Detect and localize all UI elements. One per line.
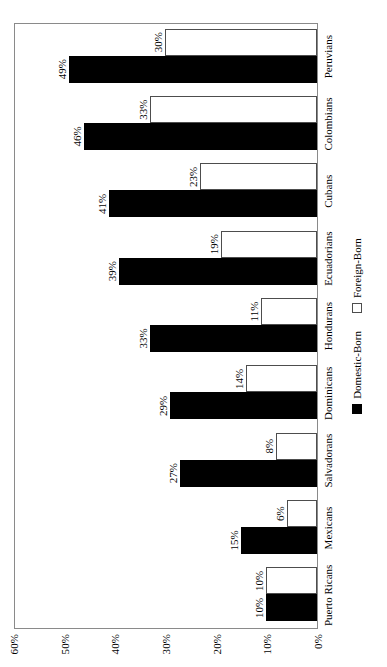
category-tick-label: Mexicans [322,507,334,550]
value-tick-label: 30% [160,634,172,654]
bar-value-label: 39% [106,261,118,281]
bar-value-label: 23% [187,167,199,187]
value-tick-label: 40% [109,634,121,654]
value-tick-label: 60% [8,634,20,654]
bar-value-label: 11% [248,302,260,322]
category-tick-label: Salvadorans [322,434,334,488]
category-tick-label: Hondurans [322,302,334,350]
value-tick-label: 50% [59,634,71,654]
bar-domestic-born[interactable]: 33% [150,325,317,352]
chart-page: 0%10%20%30%40%50%60% 10%10%15%6%27%8%29%… [0,0,387,667]
value-tick-label: 20% [211,634,223,654]
value-tick-label: 0% [312,634,324,649]
bar-foreign-born[interactable]: 14% [246,365,317,392]
legend-swatch-foreign-born-icon [352,303,362,313]
bar-domestic-born[interactable]: 41% [109,190,317,217]
bar-foreign-born[interactable]: 23% [200,163,317,190]
bar-value-label: 14% [233,369,245,389]
bar-value-label: 10% [253,598,265,618]
bar-group: 10%10% [15,561,317,628]
bar-group: 33%11% [15,291,317,358]
legend-label: Domestic-Born [351,331,363,399]
bar-domestic-born[interactable]: 15% [241,527,317,554]
bar-group: 39%19% [15,224,317,291]
legend-label: Foreign-Born [351,238,363,298]
bar-value-label: 46% [71,126,83,146]
legend-item[interactable]: Domestic-Born [351,331,363,414]
bar-value-label: 8% [263,439,275,454]
category-tick-label: Dominicans [322,367,334,420]
value-tick-label: 10% [261,634,273,654]
legend-item[interactable]: Foreign-Born [351,238,363,313]
plot-area: 10%10%15%6%27%8%29%14%33%11%39%19%41%23%… [14,23,318,629]
bar-domestic-born[interactable]: 10% [266,594,317,621]
legend-swatch-domestic-born-icon [352,404,362,414]
bar-chart-figure: 0%10%20%30%40%50%60% 10%10%15%6%27%8%29%… [0,0,387,667]
bar-value-label: 33% [137,99,149,119]
bar-value-label: 41% [96,194,108,214]
bar-foreign-born[interactable]: 30% [165,29,317,56]
bar-domestic-born[interactable]: 27% [180,460,317,487]
bar-group: 27%8% [15,426,317,493]
chart-legend: Domestic-BornForeign-Born [346,23,368,629]
plot-inner: 10%10%15%6%27%8%29%14%33%11%39%19%41%23%… [15,24,317,628]
category-axis-labels: Puerto RicansMexicansSalvadoransDominica… [320,23,340,629]
bar-group: 46%33% [15,89,317,156]
bar-domestic-born[interactable]: 29% [170,392,317,419]
bar-value-label: 6% [274,506,286,521]
bar-foreign-born[interactable]: 8% [276,433,317,460]
bar-value-label: 27% [167,463,179,483]
bar-value-label: 29% [157,396,169,416]
category-tick-label: Colombians [322,97,334,150]
bar-foreign-born[interactable]: 11% [261,298,317,325]
bar-value-label: 10% [253,571,265,591]
category-tick-label: Peruvians [322,35,334,78]
bar-value-label: 30% [152,32,164,52]
bar-domestic-born[interactable]: 46% [84,123,317,150]
bar-domestic-born[interactable]: 39% [119,258,317,285]
bar-foreign-born[interactable]: 10% [266,567,317,594]
bar-domestic-born[interactable]: 49% [69,56,317,83]
bar-foreign-born[interactable]: 33% [150,96,317,123]
bar-group: 41%23% [15,157,317,224]
bar-group: 29%14% [15,359,317,426]
category-tick-label: Puerto Ricans [322,565,334,626]
rotated-figure-wrapper: 0%10%20%30%40%50%60% 10%10%15%6%27%8%29%… [0,0,387,667]
category-tick-label: Ecuadorians [322,231,334,285]
bar-group: 15%6% [15,493,317,560]
bar-value-label: 15% [228,530,240,550]
value-axis-ticks: 0%10%20%30%40%50%60% [14,629,318,667]
bar-value-label: 49% [56,59,68,79]
bar-foreign-born[interactable]: 19% [221,231,317,258]
bar-value-label: 33% [137,328,149,348]
bar-group: 49%30% [15,22,317,89]
bar-foreign-born[interactable]: 6% [287,500,317,527]
category-tick-label: Cubans [322,175,334,208]
bar-value-label: 19% [208,234,220,254]
